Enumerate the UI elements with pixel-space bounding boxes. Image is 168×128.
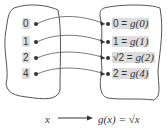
- domain-item: 0: [22, 18, 30, 29]
- domain-item: 2: [22, 52, 30, 63]
- caption-output: g(x) = √x: [98, 113, 140, 125]
- range-item: 0 = g(0): [112, 18, 149, 29]
- range-item: √2 = g(2): [112, 52, 155, 63]
- range-item: 2 = g(4): [112, 68, 149, 79]
- domain-item: 4: [22, 68, 30, 79]
- caption-input: x: [45, 113, 50, 125]
- range-item: 1 = g(1): [112, 36, 149, 47]
- domain-item: 1: [22, 36, 30, 47]
- domain-blob: [5, 5, 61, 99]
